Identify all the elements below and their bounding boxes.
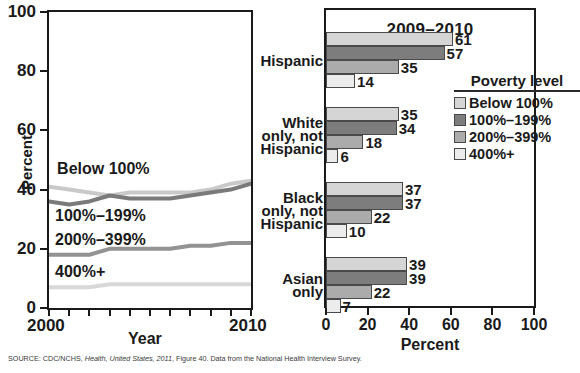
- y-tick-label: 0: [0, 298, 36, 318]
- bar: [326, 285, 372, 299]
- legend: Poverty level Below 100%100%–199%200%–39…: [454, 72, 580, 162]
- source-prefix: SOURCE: CDC/NCHS,: [8, 354, 85, 363]
- bar-value-label: 14: [357, 73, 374, 90]
- bar-x-tick-mark: [450, 308, 452, 315]
- y-tick-mark: [40, 129, 47, 131]
- line-series-label: 400%+: [55, 263, 105, 281]
- bar-x-tick-label: 100: [521, 316, 548, 334]
- legend-item-label: 400%+: [469, 146, 515, 162]
- legend-swatch: [454, 148, 466, 160]
- bar-value-label: 22: [374, 209, 391, 226]
- y-tick-label: 80: [0, 61, 36, 81]
- bar: [326, 107, 399, 121]
- legend-item: 200%–399%: [454, 128, 580, 145]
- bar-value-label: 39: [409, 270, 426, 287]
- x-tick-mark: [210, 309, 212, 316]
- legend-item-label: Below 100%: [469, 95, 553, 111]
- legend-swatch: [454, 114, 466, 126]
- bar-x-tick-label: 40: [400, 316, 418, 334]
- y-tick-label: 20: [0, 239, 36, 259]
- x-tick-label: 2010: [229, 316, 267, 336]
- x-tick-mark: [48, 309, 50, 316]
- x-tick-mark: [250, 309, 252, 316]
- y-tick-label: 100: [0, 2, 36, 22]
- bar-value-label: 6: [340, 148, 348, 165]
- bar-x-tick-mark: [533, 308, 535, 315]
- x-tick-mark: [88, 309, 90, 316]
- bar: [326, 299, 341, 313]
- legend-swatch: [454, 97, 466, 109]
- x-tick-mark: [68, 309, 70, 316]
- legend-swatch: [454, 131, 466, 143]
- legend-item: 400%+: [454, 145, 580, 162]
- bar-x-tick-mark: [325, 308, 327, 315]
- bar: [326, 46, 445, 60]
- y-tick-mark: [40, 307, 47, 309]
- bar: [326, 196, 403, 210]
- bar-x-tick-label: 60: [442, 316, 460, 334]
- bar-x-tick-mark: [491, 308, 493, 315]
- x-tick-mark: [189, 309, 191, 316]
- line-chart-panel: 020406080100 20002010 Below 100%100%–199…: [0, 0, 276, 350]
- legend-items: Below 100%100%–199%200%–399%400%+: [454, 94, 580, 162]
- bar-value-label: 34: [399, 120, 416, 137]
- bar: [326, 149, 338, 163]
- bar: [326, 135, 363, 149]
- x-tick-mark: [149, 309, 151, 316]
- line-series-400-: [49, 284, 251, 287]
- bar-x-tick-mark: [408, 308, 410, 315]
- x-tick-mark: [129, 309, 131, 316]
- bar-x-tick-mark: [367, 308, 369, 315]
- bar: [326, 210, 372, 224]
- bar-value-label: 35: [401, 59, 418, 76]
- line-chart-x-axis-title: Year: [128, 330, 162, 348]
- legend-item: Below 100%: [454, 94, 580, 111]
- bar-value-label: 57: [447, 45, 464, 62]
- bar: [326, 74, 355, 88]
- source-suffix: , Figure 40. Data from the National Heal…: [172, 354, 362, 363]
- bar: [326, 224, 347, 238]
- legend-divider: [454, 90, 580, 92]
- line-chart-y-axis-title: Percent: [18, 135, 35, 190]
- bar-chart-plot-area: 2009–2010 615735143534186373722103939227…: [324, 8, 536, 308]
- bar-value-label: 10: [349, 223, 366, 240]
- bar: [326, 271, 407, 285]
- legend-item-label: 100%–199%: [469, 112, 551, 128]
- y-tick-mark: [40, 70, 47, 72]
- y-tick-mark: [40, 248, 47, 250]
- line-series-label: 100%–199%: [55, 207, 146, 225]
- bar-category-label: Blackonly, notHispanic: [260, 191, 326, 230]
- x-tick-label: 2000: [27, 316, 65, 336]
- y-tick-mark: [40, 189, 47, 191]
- bar: [326, 60, 399, 74]
- legend-title: Poverty level: [454, 72, 580, 90]
- y-tick-mark: [40, 11, 47, 13]
- legend-item: 100%–199%: [454, 111, 580, 128]
- bar-x-tick-label: 80: [483, 316, 501, 334]
- line-series-label: 200%–399%: [55, 231, 146, 249]
- bar-chart-x-axis-title: Percent: [324, 336, 536, 354]
- x-tick-mark: [169, 309, 171, 316]
- line-series-below-100-: [49, 181, 251, 196]
- bar-x-tick-label: 20: [359, 316, 377, 334]
- x-tick-mark: [230, 309, 232, 316]
- bar-category-label: Whiteonly, notHispanic: [260, 116, 326, 155]
- bar-category-label: Hispanic: [260, 54, 326, 67]
- bar: [326, 257, 407, 271]
- x-tick-mark: [109, 309, 111, 316]
- source-note: SOURCE: CDC/NCHS, Health, United States,…: [8, 354, 362, 363]
- line-series-label: Below 100%: [57, 160, 149, 178]
- bar-chart-panel: 2009–2010 615735143534186373722103939227…: [276, 0, 552, 350]
- bar-value-label: 22: [374, 284, 391, 301]
- bar-x-tick-label: 0: [322, 316, 331, 334]
- bar-value-label: 7: [343, 298, 351, 315]
- bar-value-label: 18: [365, 134, 382, 151]
- source-publication-title: Health, United States, 2011: [85, 354, 172, 363]
- bar: [326, 32, 453, 46]
- bar: [326, 182, 403, 196]
- legend-item-label: 200%–399%: [469, 129, 551, 145]
- bar-value-label: 37: [405, 195, 422, 212]
- bar: [326, 121, 397, 135]
- bar-category-label: Asianonly: [282, 272, 326, 298]
